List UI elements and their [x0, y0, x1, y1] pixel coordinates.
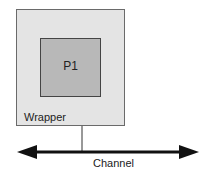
channel-arrowhead-right-icon: [179, 145, 199, 159]
channel-arrowhead-left-icon: [17, 145, 37, 159]
channel-label: Channel: [93, 157, 134, 169]
connector-graphics: [0, 0, 211, 179]
